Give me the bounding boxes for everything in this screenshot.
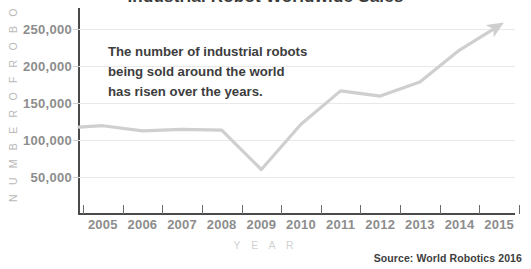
x-tick-label: 2015 (484, 217, 514, 232)
annotation-line-3: has risen over the years. (108, 82, 307, 102)
x-tick-label: 2005 (88, 217, 118, 232)
chart-annotation: The number of industrial robots being so… (108, 42, 307, 102)
x-tick-label: 2007 (167, 217, 197, 232)
x-axis-caption: Y E A R (0, 239, 531, 251)
x-tick-label: 2009 (246, 217, 276, 232)
y-tick-label: 200,000 (23, 58, 72, 73)
source-note: Source: World Robotics 2016 (374, 252, 522, 264)
x-tick-label: 2014 (445, 217, 475, 232)
y-tick-label: 150,000 (23, 95, 72, 110)
chart-container: Industrial Robot Worldwide Sales N U M B… (0, 0, 531, 269)
y-tick-label: 50,000 (30, 169, 72, 184)
annotation-line-1: The number of industrial robots (108, 42, 307, 62)
x-tick-label: 2013 (405, 217, 435, 232)
chart-title: Industrial Robot Worldwide Sales (0, 0, 531, 5)
annotation-line-2: being sold around the world (108, 62, 307, 82)
y-tick-label: 100,000 (23, 132, 72, 147)
x-tick-label: 2006 (128, 217, 158, 232)
x-tick-label: 2011 (326, 217, 355, 232)
x-tick-label: 2012 (365, 217, 395, 232)
plot-area: 50,000100,000150,000200,000250,000 20052… (79, 10, 515, 214)
data-line-series (79, 10, 515, 214)
y-tick-label: 250,000 (23, 21, 72, 36)
x-tick-label: 2010 (286, 217, 316, 232)
x-tick-mark (519, 205, 520, 214)
y-axis-caption: N U M B E R O F R O B O T S (7, 22, 19, 202)
x-tick-label: 2008 (207, 217, 237, 232)
